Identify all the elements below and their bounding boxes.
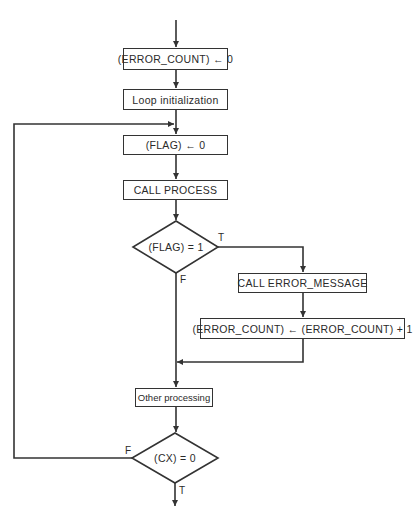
loop-initialization-box: Loop initialization [123, 89, 228, 110]
flowchart-connectors [0, 0, 419, 518]
init-error-count-box: (ERROR_COUNT) ← 0 [123, 48, 228, 70]
cx-true-label: T [179, 485, 185, 496]
cx-test-decision: (CX) = 0 [154, 452, 196, 464]
call-error-message-box: CALL ERROR_MESSAGE [238, 273, 367, 293]
flag-false-label: F [180, 274, 186, 285]
cx-false-label: F [125, 445, 131, 456]
reset-flag-box: (FLAG) ← 0 [123, 135, 228, 155]
flag-true-label: T [218, 232, 224, 243]
other-processing-box: Other processing [135, 388, 213, 407]
flag-test-decision: (FLAG) = 1 [148, 241, 203, 253]
increment-error-count-box: (ERROR_COUNT) ← (ERROR_COUNT) + 1 [200, 318, 405, 339]
call-process-box: CALL PROCESS [123, 180, 228, 200]
